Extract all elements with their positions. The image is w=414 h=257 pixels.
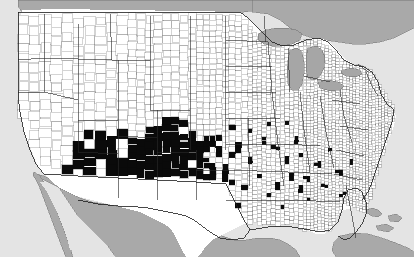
county-unshaded <box>281 83 285 87</box>
county-unshaded <box>321 91 325 94</box>
county-unshaded <box>332 197 335 199</box>
county-unshaded <box>95 36 106 44</box>
county-unshaded <box>325 160 328 162</box>
county-unshaded <box>335 96 339 99</box>
county-unshaded <box>356 98 360 101</box>
county-unshaded <box>280 213 284 217</box>
county-unshaded <box>349 82 353 85</box>
county-unshaded <box>146 60 153 67</box>
county-unshaded <box>336 182 339 185</box>
county-unshaded <box>276 103 280 106</box>
county-unshaded <box>210 152 215 157</box>
county-unshaded <box>372 83 375 86</box>
county-unshaded <box>241 74 248 80</box>
county-unshaded <box>276 48 281 51</box>
county-unshaded <box>106 70 116 78</box>
county-unshaded <box>222 148 229 153</box>
county-unshaded <box>372 80 375 83</box>
county-unshaded <box>275 222 280 227</box>
county-unshaded <box>262 129 266 132</box>
county-unshaded <box>366 179 369 182</box>
county-unshaded <box>294 128 299 132</box>
county-unshaded <box>328 216 332 219</box>
county-unshaded <box>303 52 307 55</box>
county-unshaded <box>154 89 162 95</box>
county-unshaded <box>266 197 271 200</box>
county-unshaded <box>106 127 117 138</box>
county-unshaded <box>366 107 369 110</box>
county-unshaded <box>356 106 359 109</box>
county-shaded <box>210 141 216 147</box>
county-unshaded <box>318 174 321 177</box>
county-unshaded <box>310 139 314 142</box>
county-unshaded <box>332 203 335 206</box>
county-unshaded <box>369 147 372 150</box>
county-unshaded <box>314 160 317 163</box>
county-shaded <box>128 138 138 144</box>
county-unshaded <box>363 152 366 154</box>
county-unshaded <box>248 70 253 74</box>
county-unshaded <box>307 117 311 120</box>
county-unshaded <box>209 53 216 59</box>
county-unshaded <box>197 14 203 19</box>
county-unshaded <box>271 98 276 102</box>
county-unshaded <box>332 191 336 194</box>
county-unshaded <box>51 93 63 102</box>
county-unshaded <box>382 136 385 138</box>
county-unshaded <box>163 28 171 35</box>
county-unshaded <box>241 96 248 101</box>
county-unshaded <box>229 70 236 74</box>
county-unshaded <box>332 107 336 110</box>
county-unshaded <box>307 139 311 143</box>
county-unshaded <box>332 110 335 113</box>
county-unshaded <box>303 157 307 160</box>
county-unshaded <box>242 140 249 145</box>
county-unshaded <box>303 219 306 222</box>
county-unshaded <box>96 121 105 130</box>
county-unshaded <box>154 30 162 37</box>
county-shaded <box>216 135 222 141</box>
county-unshaded <box>289 213 294 217</box>
county-unshaded <box>248 208 253 212</box>
county-shaded <box>95 131 106 141</box>
county-unshaded <box>366 94 369 97</box>
county-unshaded <box>299 122 303 125</box>
county-unshaded <box>30 102 40 111</box>
county-unshaded <box>332 206 336 209</box>
county-unshaded <box>362 204 365 206</box>
county-shaded <box>171 117 179 124</box>
county-unshaded <box>285 89 290 93</box>
county-unshaded <box>356 120 359 122</box>
county-unshaded <box>350 121 353 124</box>
county-unshaded <box>62 108 73 119</box>
county-unshaded <box>145 105 154 113</box>
county-unshaded <box>324 64 328 67</box>
county-unshaded <box>359 143 362 145</box>
county-unshaded <box>272 193 276 197</box>
county-unshaded <box>303 170 307 173</box>
county-unshaded <box>381 119 384 121</box>
county-unshaded <box>325 144 328 147</box>
county-unshaded <box>19 72 28 80</box>
county-unshaded <box>248 58 252 62</box>
county-shaded <box>271 145 276 149</box>
county-unshaded <box>285 152 290 156</box>
county-unshaded <box>356 194 359 197</box>
county-unshaded <box>253 119 258 123</box>
county-unshaded <box>129 49 137 57</box>
county-unshaded <box>267 87 271 91</box>
county-unshaded <box>362 185 365 188</box>
county-unshaded <box>303 188 307 191</box>
county-unshaded <box>163 73 171 81</box>
county-unshaded <box>307 136 310 139</box>
county-shaded <box>299 153 303 156</box>
county-unshaded <box>369 86 373 88</box>
county-unshaded <box>73 66 85 74</box>
county-unshaded <box>62 23 73 33</box>
county-unshaded <box>253 60 258 64</box>
county-unshaded <box>253 56 257 59</box>
county-unshaded <box>303 154 307 157</box>
county-unshaded <box>210 31 217 36</box>
county-unshaded <box>280 55 285 58</box>
county-unshaded <box>262 176 267 179</box>
